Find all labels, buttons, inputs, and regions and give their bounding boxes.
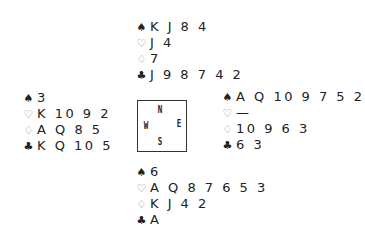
east-clubs: 6 3 [236, 137, 264, 152]
compass-north: N [158, 104, 163, 115]
west-hearts-row: ♡K 10 9 2 [23, 106, 113, 122]
east-spades: A Q 10 9 7 5 2 [236, 89, 365, 104]
diamond-icon: ♢ [222, 122, 233, 138]
south-spades: 6 [150, 164, 161, 179]
compass-box: N W E S [137, 100, 187, 152]
east-clubs-row: ♣6 3 [222, 137, 365, 153]
club-icon: ♣ [222, 138, 233, 154]
spade-icon: ♠ [222, 90, 233, 106]
diamond-icon: ♢ [23, 123, 34, 139]
south-clubs-row: ♣A [136, 212, 268, 228]
north-clubs-row: ♣J 9 8 7 4 2 [136, 67, 243, 83]
east-spades-row: ♠A Q 10 9 7 5 2 [222, 89, 365, 105]
north-hearts-row: ♡J 4 [136, 35, 243, 51]
north-diamonds: 7 [150, 51, 161, 66]
compass-south: S [158, 136, 163, 147]
club-icon: ♣ [136, 213, 147, 229]
heart-icon: ♡ [23, 107, 34, 123]
north-spades: K J 8 4 [150, 19, 209, 34]
west-hand: ♠3 ♡K 10 9 2 ♢A Q 8 5 ♣K Q 10 5 [23, 90, 113, 154]
heart-icon: ♡ [136, 181, 147, 197]
north-spades-row: ♠K J 8 4 [136, 19, 243, 35]
south-spades-row: ♠6 [136, 164, 268, 180]
south-diamonds: K J 4 2 [150, 196, 209, 211]
north-hearts: J 4 [150, 35, 174, 50]
north-diamonds-row: ♢7 [136, 51, 243, 67]
compass-east: E [177, 118, 182, 129]
west-spades: 3 [37, 90, 48, 105]
heart-icon: ♡ [222, 106, 233, 122]
club-icon: ♣ [136, 68, 147, 84]
west-diamonds: A Q 8 5 [37, 122, 103, 137]
east-diamonds: 10 9 6 3 [236, 121, 310, 136]
club-icon: ♣ [23, 139, 34, 155]
south-diamonds-row: ♢K J 4 2 [136, 196, 268, 212]
west-clubs-row: ♣K Q 10 5 [23, 138, 113, 154]
compass-west: W [144, 120, 149, 131]
west-hearts: K 10 9 2 [37, 106, 111, 121]
south-hearts: A Q 8 7 6 5 3 [150, 180, 268, 195]
west-diamonds-row: ♢A Q 8 5 [23, 122, 113, 138]
east-hearts-row: ♡— [222, 105, 365, 121]
east-hearts: — [236, 105, 252, 120]
diamond-icon: ♢ [136, 52, 147, 68]
spade-icon: ♠ [136, 20, 147, 36]
east-diamonds-row: ♢10 9 6 3 [222, 121, 365, 137]
diamond-icon: ♢ [136, 197, 147, 213]
south-hand: ♠6 ♡A Q 8 7 6 5 3 ♢K J 4 2 ♣A [136, 164, 268, 228]
east-hand: ♠A Q 10 9 7 5 2 ♡— ♢10 9 6 3 ♣6 3 [222, 89, 365, 153]
south-hearts-row: ♡A Q 8 7 6 5 3 [136, 180, 268, 196]
north-hand: ♠K J 8 4 ♡J 4 ♢7 ♣J 9 8 7 4 2 [136, 19, 243, 83]
spade-icon: ♠ [136, 165, 147, 181]
west-clubs: K Q 10 5 [37, 138, 113, 153]
north-clubs: J 9 8 7 4 2 [150, 67, 243, 82]
heart-icon: ♡ [136, 36, 147, 52]
south-clubs: A [150, 212, 161, 227]
spade-icon: ♠ [23, 91, 34, 107]
west-spades-row: ♠3 [23, 90, 113, 106]
